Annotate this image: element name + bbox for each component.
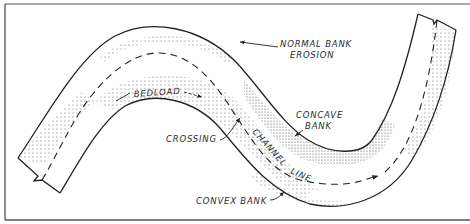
label-concave-bank-1: CONCAVE bbox=[296, 110, 343, 120]
leader-normal-bank-erosion bbox=[240, 42, 278, 47]
label-normal-bank-erosion-2: EROSION bbox=[290, 50, 335, 60]
label-concave-bank-2: BANK bbox=[305, 121, 332, 131]
label-crossing: CROSSING bbox=[166, 134, 217, 144]
river-meander-diagram: NORMAL BANK EROSION BEDLOAD CONCAVE BANK… bbox=[0, 0, 470, 224]
channel-centerline-arrow bbox=[370, 176, 378, 178]
label-convex-bank: CONVEX BANK bbox=[196, 196, 268, 206]
label-normal-bank-erosion-1: NORMAL BANK bbox=[280, 39, 353, 49]
bank-line-upper bbox=[18, 14, 418, 158]
stipple-zones bbox=[18, 28, 456, 206]
